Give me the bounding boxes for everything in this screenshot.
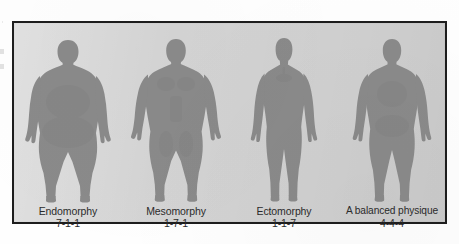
- scanned-page: Endomorphy 7-1-1: [0, 0, 459, 244]
- somatotype-rating: 1-7-1: [146, 217, 206, 229]
- somatotype-column-ectomorphy: Ectomorphy 1-1-7: [230, 23, 338, 222]
- balanced-physique-silhouette: [338, 36, 446, 204]
- somatotype-rating: 4-4-4: [346, 217, 438, 229]
- ectomorph-caption: Ectomorphy 1-1-7: [256, 204, 311, 230]
- ectomorph-silhouette: [230, 36, 338, 204]
- somatotype-column-balanced-physique: A balanced physique 4-4-4: [338, 23, 446, 222]
- endomorph-caption: Endomorphy 7-1-1: [39, 204, 98, 230]
- somatotype-rating: 7-1-1: [39, 217, 98, 229]
- somatotype-name: A balanced physique: [346, 205, 438, 217]
- somatotype-figures-row: Endomorphy 7-1-1: [14, 23, 445, 222]
- mesomorph-caption: Mesomorphy 1-7-1: [146, 204, 206, 230]
- somatotype-figure-panel: Endomorphy 7-1-1: [12, 21, 447, 224]
- somatotype-column-endomorphy: Endomorphy 7-1-1: [14, 23, 122, 222]
- somatotype-name: Ectomorphy: [256, 205, 311, 217]
- endomorph-silhouette: [14, 36, 122, 204]
- somatotype-rating: 1-1-7: [256, 217, 311, 229]
- somatotype-column-mesomorphy: Mesomorphy 1-7-1: [122, 23, 230, 222]
- scan-artifact: [0, 49, 4, 54]
- somatotype-name: Mesomorphy: [146, 205, 206, 217]
- scan-artifact: [2, 21, 3, 23]
- somatotype-name: Endomorphy: [39, 205, 98, 217]
- mesomorph-silhouette: [122, 36, 230, 204]
- balanced-physique-caption: A balanced physique 4-4-4: [346, 204, 438, 229]
- scan-artifact: [0, 64, 4, 69]
